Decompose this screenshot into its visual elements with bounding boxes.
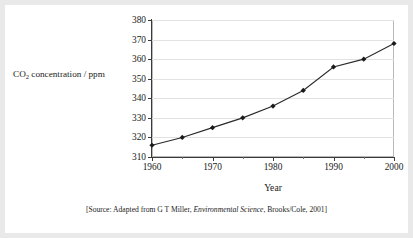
source-suffix: , Brooks/Cole, 2001] <box>263 205 327 214</box>
y-axis-title-units: concentration / ppm <box>29 69 105 79</box>
y-tick-label-320: 320 <box>132 132 146 142</box>
y-tick-label-380: 380 <box>132 15 146 25</box>
y-tick-label-370: 370 <box>132 35 146 45</box>
y-axis-title: CO2 concentration / ppm <box>13 68 131 81</box>
y-tick-label-340: 340 <box>132 93 146 103</box>
y-tick-label-330: 330 <box>132 113 146 123</box>
source-attribution: [Source: Adapted from G T Miller, Enviro… <box>5 205 408 214</box>
data-point-1995 <box>361 57 366 62</box>
x-tick-label-1980: 1980 <box>264 162 283 172</box>
data-series-co2 <box>152 20 394 157</box>
y-axis-title-text: CO <box>13 69 26 79</box>
x-tick-minor-1975 <box>243 157 244 159</box>
x-tick-label-1970: 1970 <box>203 162 222 172</box>
x-tick-minor-1995 <box>364 157 365 159</box>
page-canvas: CO2 concentration / ppm 3103203303403503… <box>5 5 408 233</box>
x-tick-label-2000: 2000 <box>385 162 404 172</box>
data-point-1970 <box>210 125 215 130</box>
data-point-2000 <box>391 41 396 46</box>
x-tick-mark-2000 <box>394 157 395 161</box>
data-point-1980 <box>270 104 275 109</box>
source-prefix: [Source: Adapted from G T Miller, <box>86 205 194 214</box>
x-tick-minor-1965 <box>182 157 183 159</box>
x-tick-mark-1970 <box>213 157 214 161</box>
x-tick-mark-1990 <box>334 157 335 161</box>
y-tick-label-360: 360 <box>132 54 146 64</box>
series-line <box>152 43 394 145</box>
x-tick-label-1990: 1990 <box>324 162 343 172</box>
x-tick-label-1960: 1960 <box>143 162 162 172</box>
x-tick-mark-1980 <box>273 157 274 161</box>
y-tick-label-350: 350 <box>132 74 146 84</box>
data-point-1975 <box>240 115 245 120</box>
source-title-italic: Environmental Science <box>193 205 263 214</box>
data-point-1965 <box>180 135 185 140</box>
y-tick-label-310: 310 <box>132 152 146 162</box>
chart-plot-area: 310320330340350360370380 196019701980199… <box>152 20 394 157</box>
y-axis-title-subscript: 2 <box>26 73 29 80</box>
x-tick-minor-1985 <box>303 157 304 159</box>
x-tick-mark-1960 <box>152 157 153 161</box>
x-axis-title: Year <box>152 182 394 193</box>
